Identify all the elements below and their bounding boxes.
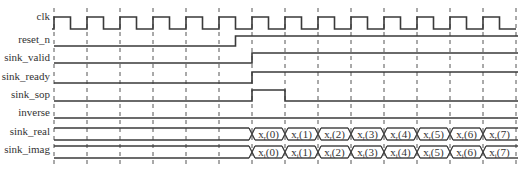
- bus-value: xi(1): [291, 146, 312, 160]
- bus-value: xi(6): [456, 146, 477, 160]
- bus-value: xi(2): [324, 146, 345, 160]
- bus-value: xr(2): [324, 128, 345, 142]
- wave-clk: [52, 17, 516, 29]
- bus-sink-imag: xi(0)xi(1)xi(2)xi(3)xi(4)xi(5)xi(6)xi(7): [54, 146, 518, 160]
- clock-edge-gridlines: [54, 8, 516, 166]
- bus-value: xi(7): [489, 146, 510, 160]
- bus-value: xi(3): [357, 146, 378, 160]
- wave-sink-valid: [54, 53, 518, 63]
- wave-reset-n: [54, 36, 518, 46]
- bus-value: xi(0): [258, 146, 279, 160]
- bus-value: xr(0): [258, 128, 279, 142]
- bus-sink-real: xr(0)xr(1)xr(2)xr(3)xr(4)xr(5)xr(6)xr(7): [54, 128, 518, 142]
- bus-value: xi(4): [390, 146, 411, 160]
- bus-value: xr(3): [357, 128, 378, 142]
- bus-value: xr(5): [423, 128, 444, 142]
- timing-diagram: xr(0)xr(1)xr(2)xr(3)xr(4)xr(5)xr(6)xr(7)…: [0, 0, 526, 176]
- bus-value: xr(6): [456, 128, 477, 142]
- bus-value: xi(5): [423, 146, 444, 160]
- bus-value: xr(7): [489, 128, 510, 142]
- wave-sink-ready: [54, 72, 518, 83]
- wave-sink-sop: [54, 90, 518, 101]
- bus-value: xr(4): [390, 128, 411, 142]
- bus-value: xr(1): [291, 128, 312, 142]
